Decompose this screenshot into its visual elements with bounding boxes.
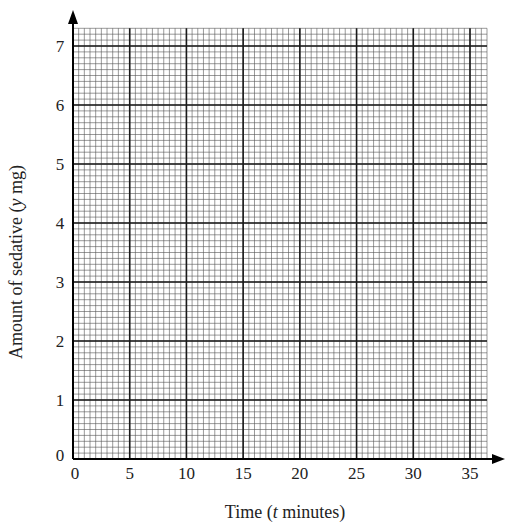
x-tick-labels: 05101520253035 <box>71 464 479 483</box>
y-tick-label: 1 <box>56 391 65 410</box>
x-tick-label: 20 <box>291 464 308 483</box>
minor-grid <box>73 28 487 459</box>
graph-paper-chart: 05101520253035 01234567 Time (t minutes)… <box>0 0 522 531</box>
y-tick-label: 5 <box>56 155 65 174</box>
axes <box>68 10 505 464</box>
x-axis-title: Time (t minutes) <box>225 502 345 523</box>
y-axis-title: Amount of sedative (y mg) <box>6 165 27 359</box>
y-tick-label: 2 <box>56 332 65 351</box>
x-tick-label: 10 <box>178 464 195 483</box>
y-tick-labels: 01234567 <box>56 37 65 465</box>
x-tick-label: 30 <box>405 464 422 483</box>
y-tick-label: 7 <box>56 37 65 56</box>
x-tick-label: 5 <box>125 464 134 483</box>
x-tick-label: 0 <box>71 464 80 483</box>
x-tick-label: 15 <box>235 464 252 483</box>
x-tick-label: 35 <box>462 464 479 483</box>
y-tick-label: 4 <box>56 214 65 233</box>
y-tick-label: 6 <box>56 96 65 115</box>
y-axis-arrow-icon <box>68 10 78 24</box>
x-tick-label: 25 <box>348 464 365 483</box>
y-tick-label: 0 <box>56 446 65 465</box>
y-tick-label: 3 <box>56 273 65 292</box>
x-axis-arrow-icon <box>492 454 505 464</box>
